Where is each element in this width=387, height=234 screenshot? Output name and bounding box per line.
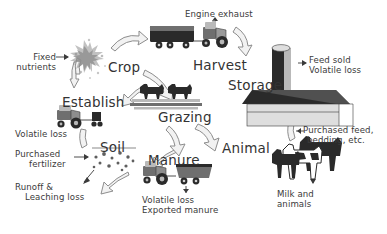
flow-label-soil-volatile-loss: Volatile loss — [15, 130, 67, 140]
arrow-establish-to-crop — [111, 31, 148, 51]
arrow-manure-losses-connector — [183, 186, 189, 193]
flow-label-manure-losses-line2: Exported manure — [142, 206, 218, 216]
flow-label-purchased-feed: Purchased feed, bedding, etc. — [303, 126, 374, 146]
stage-label-animal: Animal — [222, 141, 270, 157]
stage-label-grazing: Grazing — [158, 110, 212, 126]
flow-label-purchased-fertilizer: Purchased fertilizer — [15, 150, 66, 170]
flow-label-runoff-leaching: Runoff & Leaching loss — [15, 183, 84, 203]
flow-label-milk-and-animals-line2: animals — [277, 200, 314, 210]
flow-label-purchased-fertilizer-line2: fertilizer — [29, 160, 66, 170]
arrow-feed-sold-connector — [298, 60, 307, 66]
arrow-storage-to-animal — [195, 124, 219, 151]
stage-label-crop: Crop — [108, 60, 140, 76]
stage-label-establish: Establish — [62, 95, 125, 111]
flow-label-fixed-nutrients-line2: nutrients — [0, 63, 56, 73]
stage-label-soil: Soil — [100, 140, 125, 156]
arrow-fixed-nutrients-connector — [56, 54, 69, 60]
arrow-manure-to-soil — [101, 172, 129, 194]
arrow-runoff-leaching-connector — [83, 170, 94, 184]
stage-label-harvest: Harvest — [193, 58, 247, 74]
flow-label-manure-losses: Volatile loss Exported manure — [142, 196, 218, 216]
flow-label-feed-sold: Feed sold Volatile loss — [309, 56, 361, 76]
flow-label-milk-and-animals: Milk and animals — [277, 190, 314, 210]
flow-label-fixed-nutrients: Fixed nutrients — [0, 53, 56, 73]
flow-label-engine-exhaust: Engine exhaust — [185, 10, 253, 20]
flow-label-feed-sold-line2: Volatile loss — [309, 66, 361, 76]
flow-label-purchased-feed-line2: bedding, etc. — [307, 136, 374, 146]
flow-label-runoff-leaching-line2: Leaching loss — [25, 193, 84, 203]
arrow-soil-volatile-out — [80, 129, 87, 148]
arrow-purchased-fertilizer-connector — [74, 154, 89, 160]
nutrient-cycle-diagram: Crop Harvest Storage Animal Manure Soil … — [0, 0, 387, 234]
stage-label-manure: Manure — [148, 153, 200, 169]
stage-label-storage: Storage — [228, 78, 282, 94]
harvest-truck-tractor-icon — [150, 20, 228, 48]
arrow-harvest-to-storage — [233, 27, 252, 56]
